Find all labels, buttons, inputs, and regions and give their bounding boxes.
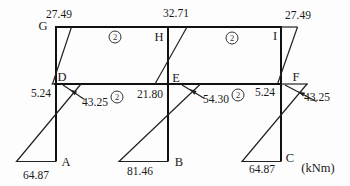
beam-stiffness-badge-HI: 2 xyxy=(226,32,239,45)
moment-value-D-upper-col: 5.24 xyxy=(31,88,51,100)
unit-label: (kNm) xyxy=(301,162,334,175)
joint-label-F: F xyxy=(293,71,300,84)
joint-label-C: C xyxy=(286,152,294,165)
joint-label-D: D xyxy=(57,71,66,84)
moment-value-F-upper-col: 5.24 xyxy=(255,87,275,99)
moment-value-B-base: 81.46 xyxy=(127,166,153,178)
moment-value-A-base: 64.87 xyxy=(23,170,49,182)
joint-label-H: H xyxy=(154,31,163,44)
joint-label-G: G xyxy=(38,20,47,33)
beam-stiffness-badge-GH: 2 xyxy=(109,31,122,44)
moment-value-H-top: 32.71 xyxy=(163,8,189,20)
joint-label-I: I xyxy=(273,30,277,43)
frame-members xyxy=(54,26,282,162)
moment-value-E-upper-col: 21.80 xyxy=(137,89,163,101)
moment-value-G-top: 27.49 xyxy=(46,9,72,21)
joint-label-A: A xyxy=(61,156,70,169)
moment-value-C-base: 64.87 xyxy=(249,164,275,176)
beam-stiffness-badge-EF: 2 xyxy=(232,89,245,102)
moment-value-F-lower-col: 43.25 xyxy=(304,92,330,104)
joint-label-B: B xyxy=(175,156,183,169)
moment-value-D-lower-col: 43.25 xyxy=(82,97,108,109)
joint-label-E: E xyxy=(172,72,180,85)
moment-value-E-lower-col: 54.30 xyxy=(203,94,229,106)
beam-stiffness-badge-DE: 2 xyxy=(111,91,124,104)
moment-value-I-top: 27.49 xyxy=(285,10,311,22)
frame-moment-diagram: 27.49 32.71 27.49 5.24 21.80 5.24 43.25 … xyxy=(0,0,350,186)
